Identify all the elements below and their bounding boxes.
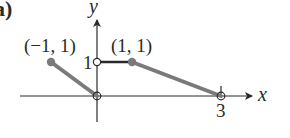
- open-point-0-1: [93, 58, 100, 65]
- x-axis-label: x: [258, 84, 267, 104]
- closed-point-neg1-1: [47, 58, 55, 66]
- y-tick-label-1: 1: [83, 53, 93, 72]
- segment-3: [132, 62, 221, 96]
- piecewise-graph: [0, 0, 290, 138]
- closed-point-1-1: [128, 58, 136, 66]
- x-tick-label-3: 3: [216, 101, 226, 120]
- point-label-neg1-1: (−1, 1): [24, 36, 76, 55]
- y-axis-label: y: [89, 0, 98, 16]
- point-label-1-1: (1, 1): [111, 36, 152, 55]
